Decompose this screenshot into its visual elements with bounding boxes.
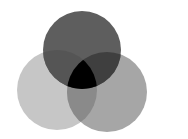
venn-svg	[0, 0, 188, 139]
venn-diagram	[0, 0, 188, 139]
